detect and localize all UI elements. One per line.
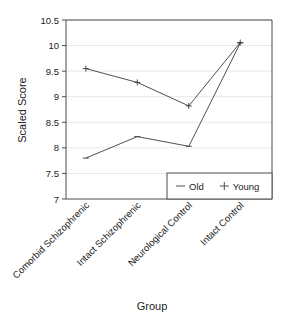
y-axis-title: Scaled Score <box>16 77 28 142</box>
y-tick-label-8: 8 <box>54 142 59 153</box>
y-tick-label-7: 7 <box>54 194 59 205</box>
chart-legend: OldYoung <box>167 173 272 199</box>
y-tick-label-9: 9 <box>54 91 59 102</box>
y-tick-label-7.5: 7.5 <box>46 168 59 179</box>
legend-label-old: Old <box>189 181 204 192</box>
y-tick-label-10: 10 <box>48 40 59 51</box>
chart-background <box>0 0 287 328</box>
line-chart: 77.588.599.51010.5 Comorbid Schizophreni… <box>0 0 287 328</box>
x-axis-title: Group <box>137 300 168 312</box>
y-tick-label-8.5: 8.5 <box>46 117 59 128</box>
chart-figure: 77.588.599.51010.5 Comorbid Schizophreni… <box>0 0 287 328</box>
y-tick-label-9.5: 9.5 <box>46 66 59 77</box>
y-tick-label-10.5: 10.5 <box>41 15 60 26</box>
legend-label-young: Young <box>233 181 260 192</box>
